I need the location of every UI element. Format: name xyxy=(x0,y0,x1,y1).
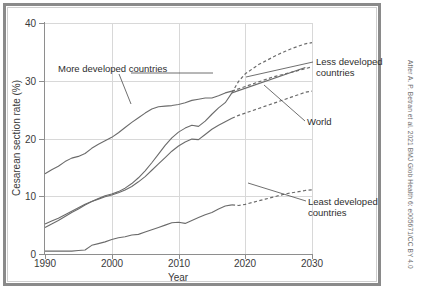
series-label-least-developed-line2: countries xyxy=(308,207,347,218)
y-tick-label: 40 xyxy=(25,18,36,29)
x-tick-label: 2030 xyxy=(301,258,323,269)
series-label-world: World xyxy=(307,116,332,127)
gridline-vertical xyxy=(179,23,180,254)
x-axis-title: Year xyxy=(168,272,188,283)
gridline-vertical xyxy=(112,23,113,254)
x-tick-label: 2000 xyxy=(101,258,123,269)
y-tick-mark xyxy=(39,254,44,255)
y-tick-label: 30 xyxy=(25,76,36,87)
x-tick-label: 2010 xyxy=(168,258,190,269)
y-axis-title-host: Cesarean section rate (%) xyxy=(14,0,15,277)
gridline-vertical xyxy=(312,23,313,254)
y-axis-title: Cesarean section rate (%) xyxy=(11,80,22,196)
x-tick-label: 1990 xyxy=(34,258,56,269)
figure-frame-inner xyxy=(7,7,377,282)
series-label-least-developed-line1: Least developed xyxy=(308,196,378,207)
series-label-less-developed-line1: Less developed xyxy=(316,56,383,67)
x-tick-label: 2020 xyxy=(234,258,256,269)
series-label-less-developed-line2: countries xyxy=(316,67,355,78)
y-tick-label: 20 xyxy=(25,134,36,145)
figure-root: 010203040 19902000201020202030 Cesarean … xyxy=(0,0,429,297)
series-label-more-developed: More developed countries xyxy=(58,63,167,74)
y-tick-label: 10 xyxy=(25,191,36,202)
gridline-vertical xyxy=(245,23,246,254)
y-tick-mark xyxy=(39,23,44,24)
figure-credit: After A. P. Betran et al. 2021 BMJ Glob … xyxy=(398,60,414,290)
y-tick-mark xyxy=(39,139,44,140)
y-tick-mark xyxy=(39,196,44,197)
y-tick-mark xyxy=(39,81,44,82)
